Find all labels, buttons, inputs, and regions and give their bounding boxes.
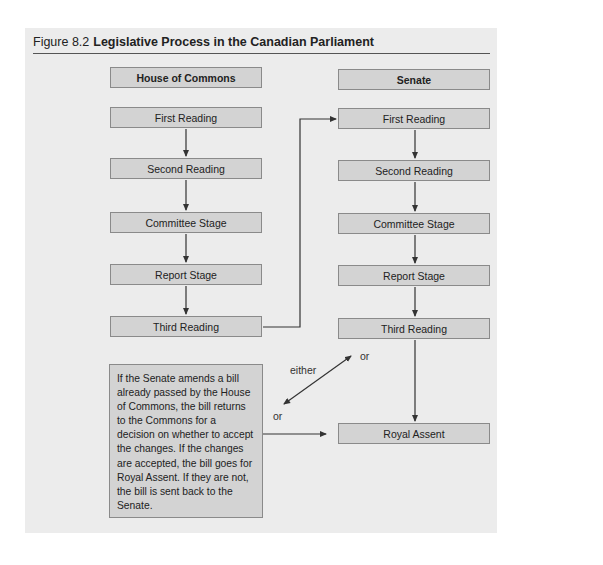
senate-first-reading: First Reading — [338, 108, 490, 129]
connectors — [0, 0, 603, 565]
amendment-note: If the Senate amends a bill already pass… — [109, 364, 263, 518]
senate-committee-stage: Committee Stage — [338, 213, 490, 234]
label-or-bottom: or — [273, 410, 282, 422]
hoc-header: House of Commons — [110, 67, 262, 88]
senate-second-reading: Second Reading — [338, 160, 490, 181]
label-either: either — [290, 364, 316, 376]
senate-header: Senate — [338, 69, 490, 90]
hoc-first-reading: First Reading — [110, 107, 262, 128]
label-or-top: or — [360, 350, 369, 362]
senate-report-stage: Report Stage — [338, 265, 490, 286]
hoc-second-reading: Second Reading — [110, 158, 262, 179]
arrow-commons-to-senate — [263, 119, 336, 327]
hoc-committee-stage: Committee Stage — [110, 212, 262, 233]
hoc-third-reading: Third Reading — [110, 316, 262, 337]
royal-assent: Royal Assent — [338, 423, 490, 444]
senate-third-reading: Third Reading — [338, 318, 490, 339]
hoc-report-stage: Report Stage — [110, 264, 262, 285]
